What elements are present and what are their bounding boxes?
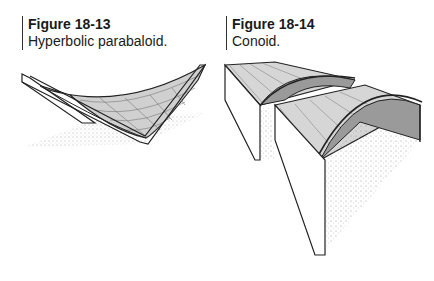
figure-18-13-caption: Figure 18-13 Hyperbolic parabaloid. — [22, 16, 167, 50]
conoid-illustration — [220, 60, 434, 281]
figure-description: Conoid. — [232, 33, 314, 50]
figure-18-14-caption: Figure 18-14 Conoid. — [226, 16, 314, 50]
figure-number: Figure 18-14 — [232, 16, 314, 33]
hyperbolic-paraboloid-illustration — [0, 60, 220, 180]
figure-description: Hyperbolic parabaloid. — [28, 33, 167, 50]
figure-number: Figure 18-13 — [28, 16, 167, 33]
